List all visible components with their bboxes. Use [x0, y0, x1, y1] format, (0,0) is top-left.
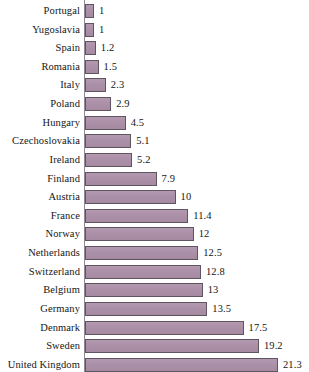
bar	[85, 227, 194, 241]
bar-shading	[86, 154, 131, 166]
value-label: 5.1	[136, 134, 149, 148]
bar	[85, 339, 259, 353]
value-label: 17.5	[249, 321, 268, 335]
bar-row: Italy2.3	[0, 78, 309, 92]
bar-row: Spain1.2	[0, 41, 309, 55]
bar-shading	[86, 284, 202, 296]
bar-row: Hungary4.5	[0, 116, 309, 130]
value-label: 4.5	[131, 116, 144, 130]
category-label: Switzerland	[29, 265, 80, 279]
bar-shading	[86, 340, 258, 352]
bar	[85, 209, 188, 223]
category-label: Yugoslavia	[32, 23, 80, 37]
bar-row: France11.4	[0, 209, 309, 223]
value-label: 21.3	[283, 358, 302, 372]
value-label: 11.4	[193, 209, 211, 223]
value-label: 12.5	[203, 246, 222, 260]
bar-row: Norway12	[0, 227, 309, 241]
value-label: 5.2	[137, 153, 150, 167]
value-label: 10	[181, 190, 192, 204]
bar-shading	[86, 98, 110, 110]
bar	[85, 283, 203, 297]
bar-shading	[86, 117, 125, 129]
bar	[85, 265, 201, 279]
bar-shading	[86, 228, 193, 240]
bar-row: United Kingdom21.3	[0, 358, 309, 372]
bar-row: Germany13.5	[0, 302, 309, 316]
bar	[85, 321, 244, 335]
bar-shading	[86, 210, 187, 222]
value-label: 7.9	[162, 172, 175, 186]
bar-shading	[86, 173, 156, 185]
value-label: 1.5	[104, 60, 117, 74]
bar-row: Netherlands12.5	[0, 246, 309, 260]
category-label: Denmark	[40, 321, 80, 335]
bar-row: Romania1.5	[0, 60, 309, 74]
bar-row: Sweden19.2	[0, 339, 309, 353]
value-label: 12	[199, 227, 210, 241]
bar-row: Denmark17.5	[0, 321, 309, 335]
bar-shading	[86, 24, 93, 36]
category-label: Poland	[50, 97, 80, 111]
value-label: 13	[208, 283, 219, 297]
category-label: Germany	[40, 302, 80, 316]
bar-shading	[86, 42, 95, 54]
bar	[85, 41, 96, 55]
category-label: Netherlands	[28, 246, 80, 260]
category-label: Romania	[41, 60, 80, 74]
value-label: 2.9	[116, 97, 129, 111]
bar-row: Austria10	[0, 190, 309, 204]
value-label: 1	[99, 23, 104, 37]
value-label: 19.2	[264, 339, 283, 353]
bar-row: Yugoslavia1	[0, 23, 309, 37]
category-label: Czechoslovakia	[12, 134, 80, 148]
bar-shading	[86, 247, 197, 259]
bar	[85, 97, 111, 111]
category-label: Ireland	[50, 153, 80, 167]
category-label: Norway	[46, 227, 80, 241]
value-label: 1	[99, 4, 104, 18]
horizontal-bar-chart: Portugal1Yugoslavia1Spain1.2Romania1.5It…	[0, 0, 309, 372]
bar-shading	[86, 266, 200, 278]
bar	[85, 302, 207, 316]
category-label: Belgium	[43, 283, 80, 297]
bar	[85, 172, 157, 186]
bar-row: Poland2.9	[0, 97, 309, 111]
bar-row: Switzerland12.8	[0, 265, 309, 279]
category-axis-line	[84, 0, 85, 372]
category-label: Austria	[48, 190, 80, 204]
bar-shading	[86, 79, 105, 91]
category-label: France	[51, 209, 80, 223]
value-label: 2.3	[111, 78, 124, 92]
bar-shading	[86, 303, 206, 315]
category-label: Portugal	[44, 4, 80, 18]
bar-shading	[86, 61, 98, 73]
value-label: 1.2	[101, 41, 114, 55]
category-label: Italy	[60, 78, 80, 92]
bar	[85, 4, 94, 18]
bar-shading	[86, 322, 243, 334]
bar-row: Portugal1	[0, 4, 309, 18]
bar-shading	[86, 5, 93, 17]
bar	[85, 358, 278, 372]
bar	[85, 116, 126, 130]
bar	[85, 153, 132, 167]
value-label: 13.5	[212, 302, 231, 316]
bar-shading	[86, 359, 277, 371]
bar-row: Finland7.9	[0, 172, 309, 186]
bar	[85, 134, 131, 148]
category-label: Spain	[56, 41, 80, 55]
bar	[85, 78, 106, 92]
value-label: 12.8	[206, 265, 225, 279]
category-label: Hungary	[43, 116, 80, 130]
category-label: Sweden	[46, 339, 80, 353]
category-label: Finland	[47, 172, 80, 186]
bar-row: Belgium13	[0, 283, 309, 297]
bar	[85, 246, 198, 260]
bar-shading	[86, 135, 130, 147]
bar-row: Ireland5.2	[0, 153, 309, 167]
category-label: United Kingdom	[8, 358, 80, 372]
bar	[85, 60, 99, 74]
bar-shading	[86, 191, 175, 203]
bar-row: Czechoslovakia5.1	[0, 134, 309, 148]
